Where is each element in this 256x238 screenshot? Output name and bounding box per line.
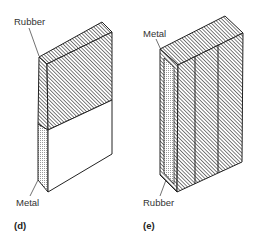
d-rubber-label: Rubber	[14, 16, 45, 27]
d-side-rubber	[38, 57, 48, 130]
d-side-metal	[38, 124, 48, 192]
figure-d: Rubber Metal (d)	[14, 16, 112, 231]
e-metal-leader	[156, 39, 161, 50]
d-metal-label: Metal	[16, 197, 39, 208]
diagram-canvas: Rubber Metal (d) Metal Rubber (e)	[0, 0, 256, 238]
e-metal-label: Metal	[143, 28, 166, 39]
d-metal-leader	[30, 180, 38, 196]
e-rubber-label: Rubber	[143, 197, 174, 208]
d-caption: (d)	[14, 220, 26, 231]
e-metal-insert	[164, 58, 174, 184]
d-rubber-leader	[29, 28, 39, 56]
e-rubber-leader	[160, 180, 166, 196]
e-caption: (e)	[143, 220, 155, 231]
figure-e: Metal Rubber (e)	[143, 16, 243, 231]
